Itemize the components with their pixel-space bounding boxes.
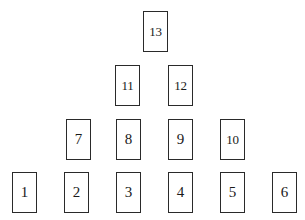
node-box[interactable]: 13 [143, 11, 168, 52]
node-box[interactable]: 11 [115, 65, 140, 106]
node-box[interactable]: 10 [220, 119, 245, 160]
node-label: 2 [73, 185, 80, 200]
node-label: 13 [149, 25, 162, 38]
node-box[interactable]: 3 [116, 172, 141, 213]
node-label: 11 [121, 79, 133, 92]
node-box[interactable]: 2 [64, 172, 89, 213]
node-box[interactable]: 5 [220, 172, 245, 213]
node-box[interactable]: 12 [168, 65, 193, 106]
node-box[interactable]: 1 [12, 172, 37, 213]
node-label: 6 [281, 185, 288, 200]
node-box[interactable]: 9 [168, 119, 193, 160]
node-label: 8 [125, 132, 132, 147]
node-box[interactable]: 7 [66, 119, 91, 160]
node-label: 10 [226, 133, 239, 146]
node-box[interactable]: 8 [116, 119, 141, 160]
node-label: 5 [229, 185, 236, 200]
node-box[interactable]: 4 [168, 172, 193, 213]
node-label: 7 [75, 132, 82, 147]
node-label: 4 [177, 185, 184, 200]
node-label: 9 [177, 132, 184, 147]
node-label: 12 [174, 79, 187, 92]
node-label: 3 [125, 185, 132, 200]
pyramid-diagram: 13111278910123456 [0, 0, 305, 220]
node-label: 1 [21, 185, 28, 200]
node-box[interactable]: 6 [272, 172, 297, 213]
